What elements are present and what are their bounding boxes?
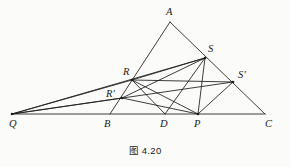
point-label-r-prime: R' [106,89,115,100]
point-label-c: C [265,119,272,130]
point-label-a: A [166,7,173,18]
geometry-diagram [0,0,290,167]
point-label-s: S [208,44,213,55]
segment-side-AQ [110,22,170,114]
segment-seg-RSp [132,80,233,82]
segment-seg-SpP [198,82,233,114]
point-label-q: Q [9,119,17,130]
point-label-r: R [123,67,130,78]
vertex-dot-q [11,113,14,116]
vertex-dot-p [197,113,200,116]
point-label-d: D [160,119,168,130]
figure-container: AQCBDPRR'SS' 图 4.20 [0,0,290,167]
vertex-dot-s [204,57,207,60]
segment-seg-RpP [122,98,198,114]
point-label-p: P [194,119,201,130]
vertex-dot-r [131,79,134,82]
segment-seg-RP [132,80,198,114]
segments-group [12,22,265,114]
point-label-b: B [104,119,111,130]
vertex-dot-r-prime [121,97,124,100]
segment-ray-QRp [12,98,122,114]
point-label-s-prime: S' [238,70,246,81]
figure-caption: 图 4.20 [0,143,290,157]
segment-seg-RS [132,58,205,80]
vertex-dot-s-prime [232,81,235,84]
